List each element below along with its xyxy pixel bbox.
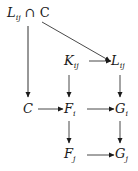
node-fj: Fj <box>64 147 76 161</box>
node-lij: Lij <box>111 54 125 68</box>
node-subscript: j <box>125 154 127 163</box>
node-kij: Kij <box>64 54 79 68</box>
node-lij-cap-c: Lij ∩ C <box>7 6 50 20</box>
node-subscript: ij <box>74 61 79 70</box>
node-fi: Fi <box>64 102 76 116</box>
node-base: C <box>23 101 33 116</box>
node-base: K <box>64 53 74 68</box>
node-subscript: ij <box>120 61 125 70</box>
node-base: G <box>115 146 125 161</box>
node-base: L <box>7 5 16 20</box>
intersection-suffix: ∩ C <box>21 5 50 20</box>
node-subscript: i <box>73 109 76 118</box>
node-base: F <box>64 146 73 161</box>
node-c: C <box>23 102 33 116</box>
node-subscript: j <box>73 154 75 163</box>
node-gi: Gi <box>115 102 128 116</box>
node-base: G <box>115 101 125 116</box>
node-gj: Gj <box>115 147 128 161</box>
node-base: L <box>111 53 120 68</box>
node-base: F <box>64 101 73 116</box>
node-subscript: i <box>125 109 128 118</box>
